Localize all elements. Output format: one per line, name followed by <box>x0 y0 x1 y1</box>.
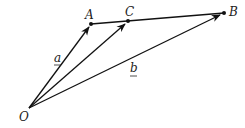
vector-diagram: A C B O a b <box>0 0 245 128</box>
vector-oa <box>29 27 89 108</box>
point-b <box>222 11 226 15</box>
label-vector-a: a <box>54 51 61 65</box>
label-b-point: B <box>228 5 238 19</box>
point-c <box>126 19 130 23</box>
label-c-point: C <box>125 5 134 19</box>
vector-oc <box>29 24 125 108</box>
label-vector-b: b <box>130 61 138 75</box>
label-a-point: A <box>84 8 94 22</box>
label-o-point: O <box>19 110 29 124</box>
point-a <box>89 22 93 26</box>
